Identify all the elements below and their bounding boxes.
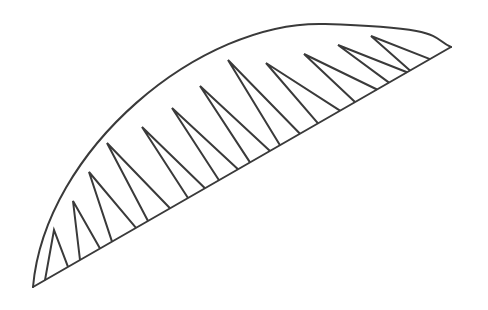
spike-8 — [228, 60, 300, 145]
spike-9 — [266, 63, 340, 123]
spike-11 — [338, 45, 407, 83]
diagram-canvas — [0, 0, 488, 310]
spike-7 — [200, 86, 270, 162]
spike-5 — [142, 127, 205, 198]
spike-group — [45, 36, 430, 280]
spiked-arc-drawing — [0, 0, 488, 310]
outer-arc — [33, 24, 451, 287]
spike-12 — [371, 36, 430, 71]
spike-6 — [172, 108, 238, 180]
